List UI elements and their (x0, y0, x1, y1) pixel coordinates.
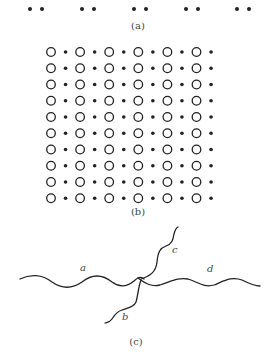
curve-a-label: a (80, 262, 86, 273)
panel-c-label: (c) (116, 336, 156, 347)
curve-d (138, 278, 260, 286)
figure-caption-partial (0, 352, 273, 360)
curve-b-label: b (122, 311, 128, 322)
curve-d-label: d (207, 263, 213, 274)
curve-a (20, 276, 144, 288)
curve-c-label: c (172, 244, 178, 255)
panel-c-junction (0, 0, 273, 340)
